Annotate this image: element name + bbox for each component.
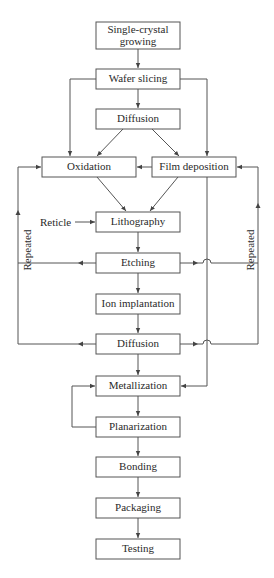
node-label: growing (120, 35, 157, 47)
repeated-label-right: Repeated (244, 229, 256, 270)
node-label: Oxidation (67, 160, 111, 172)
arrow-wafer-to-oxidation (70, 79, 96, 156)
arrowhead-left-diffusion (78, 342, 83, 347)
node-label: Diffusion (117, 112, 159, 124)
arrowhead-right-diffusion (193, 342, 198, 347)
node-oxidation: Oxidation (42, 157, 136, 177)
node-ion-implantation: Ion implantation (96, 294, 180, 314)
node-label: Metallization (109, 379, 168, 391)
arrowhead-left-etching (78, 261, 83, 266)
node-etching: Etching (96, 253, 180, 273)
node-label: Etching (121, 256, 156, 268)
arrow-diffusion-to-oxidation (97, 129, 123, 156)
arrowhead-left-up (16, 210, 21, 215)
node-film-deposition: Film deposition (152, 157, 236, 177)
node-label: Planarization (109, 420, 168, 432)
arrow-film-to-metallization (181, 177, 207, 386)
arrow-film-to-lithography (150, 177, 178, 211)
node-diffusion-1: Diffusion (96, 109, 180, 129)
node-label: Film deposition (159, 160, 229, 172)
arrow-diffusion-to-film (152, 129, 179, 156)
node-lithography: Lithography (96, 212, 180, 232)
node-testing: Testing (96, 539, 180, 559)
process-flow-diagram: Single-crystal growing Wafer slicing Dif… (0, 0, 274, 578)
node-diffusion-2: Diffusion (96, 334, 180, 354)
arrowhead-right-etching (193, 261, 198, 266)
node-label: Ion implantation (101, 297, 175, 309)
node-label: Bonding (119, 460, 157, 472)
arrow-oxidation-to-lithography (97, 177, 126, 211)
node-planarization: Planarization (96, 417, 180, 437)
node-metallization: Metallization (96, 376, 180, 396)
reticle-label: Reticle (40, 216, 71, 228)
repeated-label-left: Repeated (21, 229, 33, 270)
loop-planarization-to-metallization (72, 386, 96, 427)
node-label: Wafer slicing (109, 72, 168, 84)
node-label: Single-crystal (107, 23, 168, 35)
node-packaging: Packaging (96, 498, 180, 518)
arrowhead-right-up (256, 203, 261, 208)
node-bonding: Bonding (96, 457, 180, 477)
node-single-crystal-growing: Single-crystal growing (96, 22, 180, 49)
loop-right-diffusion (180, 340, 258, 344)
node-wafer-slicing: Wafer slicing (96, 69, 180, 89)
node-label: Diffusion (117, 337, 159, 349)
node-label: Packaging (115, 501, 161, 513)
arrow-wafer-to-film (180, 79, 207, 156)
node-label: Lithography (111, 215, 166, 227)
node-label: Testing (122, 542, 155, 554)
